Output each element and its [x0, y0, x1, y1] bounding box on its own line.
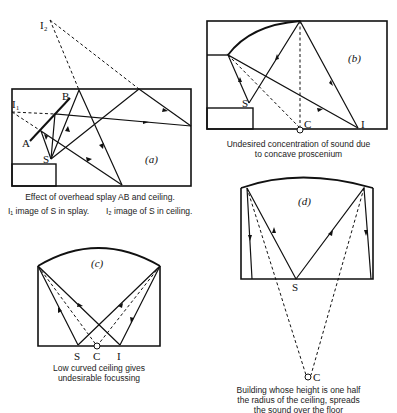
svg-text:I₁: I₁: [12, 98, 20, 110]
svg-text:S: S: [43, 153, 49, 165]
svg-text:S: S: [242, 97, 248, 109]
legend-i2: I₂ image of S in ceiling.: [106, 206, 206, 216]
caption-d-line3: the sound over the floor: [200, 405, 397, 413]
svg-text:A: A: [22, 137, 30, 149]
panel-a: I₂ I₁ B A S (a): [12, 19, 191, 186]
caption-c-line2: undesirable focussing: [0, 373, 198, 383]
svg-text:(d): (d): [298, 195, 311, 208]
caption-b-line1: Undesired concentration of sound due: [200, 139, 397, 149]
panel-c: S C I (c): [38, 248, 160, 362]
svg-text:(a): (a): [145, 153, 158, 166]
svg-text:C: C: [93, 350, 100, 362]
svg-text:S: S: [74, 350, 80, 362]
caption-a: Effect of overhead splay AB and ceiling.: [0, 192, 200, 202]
svg-text:C: C: [313, 371, 320, 383]
svg-text:S: S: [292, 281, 298, 293]
caption-d-line2: the radius of the ceiling, spreads: [200, 395, 397, 405]
svg-text:B: B: [62, 90, 69, 102]
caption-b-line2: to concave proscenium: [200, 149, 397, 159]
svg-text:(b): (b): [348, 52, 361, 65]
svg-text:I: I: [361, 118, 365, 130]
caption-c-line1: Low curved ceiling gives: [0, 363, 198, 373]
svg-text:I₂: I₂: [40, 19, 48, 31]
panel-b: S C I (b): [207, 21, 387, 133]
panel-d: S C (d): [241, 178, 373, 384]
caption-d: Building whose height is one half the ra…: [200, 385, 397, 413]
caption-d-line1: Building whose height is one half: [200, 385, 397, 395]
svg-text:(c): (c): [91, 257, 104, 270]
svg-text:C: C: [304, 118, 311, 130]
legend-i1: I₁ image of S in splay.: [8, 206, 103, 216]
svg-text:I: I: [117, 350, 121, 362]
caption-c: Low curved ceiling gives undesirable foc…: [0, 363, 198, 383]
caption-b: Undesired concentration of sound due to …: [200, 139, 397, 159]
